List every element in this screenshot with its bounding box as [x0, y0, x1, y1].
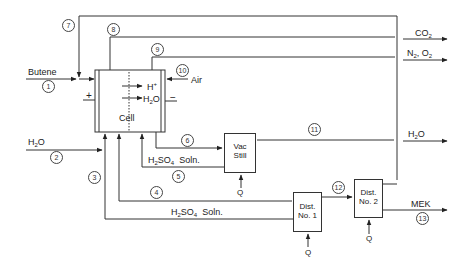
anode-plus: +	[86, 91, 92, 101]
dist-no-1: Dist. No. 1	[293, 192, 322, 232]
stream-10: 10	[176, 64, 189, 77]
dist1-label-2: No. 1	[294, 211, 321, 220]
stream-8: 8	[107, 23, 120, 36]
dist-no-2: Dist. No. 2	[354, 179, 383, 218]
water-out-label: H2O	[408, 129, 425, 139]
h2so4-soln-label-3: H2SO4 Soln.	[171, 207, 223, 217]
stream-1: 1	[42, 80, 55, 93]
stream-11: 11	[308, 123, 321, 136]
cathode-minus: −	[170, 93, 176, 103]
stream-7: 7	[62, 19, 75, 32]
vac-still-label-2: Still	[225, 151, 255, 160]
water-in-label: H2O	[28, 137, 45, 147]
heat-q-dist1: Q	[305, 248, 311, 258]
stream-3: 3	[88, 171, 101, 184]
dist2-label-2: No. 2	[355, 197, 382, 206]
stream-13: 13	[416, 212, 429, 225]
stream-4: 4	[150, 186, 163, 199]
heat-q-vac-still: Q	[237, 188, 243, 198]
dist2-label-1: Dist.	[355, 188, 382, 197]
vac-still-label-1: Vac	[225, 142, 255, 151]
mek-label: MEK	[411, 199, 431, 209]
cell-label: Cell	[119, 113, 135, 123]
vac-still: Vac Still	[224, 133, 256, 173]
stream-2: 2	[50, 151, 63, 164]
dist1-label-1: Dist.	[294, 202, 321, 211]
stream-12: 12	[332, 181, 345, 194]
n2-o2-label: N2, O2	[407, 48, 432, 58]
stream-5: 5	[172, 170, 185, 183]
co2-label: CO2	[415, 28, 432, 38]
butene-label: Butene	[28, 67, 57, 77]
water-transport-label: H2O	[143, 94, 160, 104]
stream-9: 9	[151, 43, 164, 56]
stream-6: 6	[181, 134, 194, 147]
h-plus-label: H+	[147, 82, 157, 92]
heat-q-dist2: Q	[366, 234, 372, 244]
h2so4-soln-label-5: H2SO4 Soln.	[148, 155, 200, 165]
air-label: Air	[191, 75, 202, 85]
